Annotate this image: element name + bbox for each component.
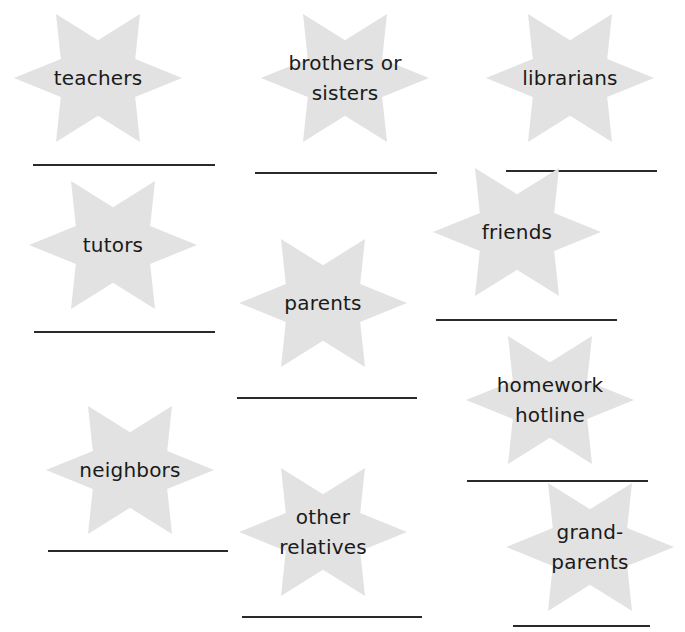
label-text: parents [284, 288, 361, 318]
label-text: friends [482, 217, 552, 247]
answer-line-tutors[interactable] [34, 331, 215, 333]
label-text: sisters [312, 78, 379, 108]
star-friends: friends [432, 157, 602, 307]
label-text: tutors [83, 230, 143, 260]
label-text: parents [551, 547, 628, 577]
star-neighbors: neighbors [45, 395, 215, 545]
label-text: librarians [522, 63, 617, 93]
star-label: parents [238, 228, 408, 378]
star-label: homework hotline [465, 325, 635, 475]
label-text: other [296, 502, 350, 532]
star-teachers: teachers [13, 3, 183, 153]
answer-line-brothers-or-sisters[interactable] [255, 172, 437, 174]
label-text: grand- [557, 517, 624, 547]
star-grandparents: grand- parents [505, 472, 675, 622]
star-label: grand- parents [505, 472, 675, 622]
star-label: neighbors [45, 395, 215, 545]
answer-line-friends[interactable] [436, 319, 617, 321]
star-other-relatives: other relatives [238, 457, 408, 607]
answer-line-teachers[interactable] [33, 164, 215, 166]
star-label: brothers or sisters [260, 3, 430, 153]
star-label: tutors [28, 170, 198, 320]
answer-line-neighbors[interactable] [48, 550, 228, 552]
star-homework-hotline: homework hotline [465, 325, 635, 475]
label-text: neighbors [79, 455, 180, 485]
answer-line-grandparents[interactable] [513, 625, 650, 627]
label-text: teachers [54, 63, 143, 93]
label-text: relatives [279, 532, 367, 562]
label-text: hotline [515, 400, 585, 430]
star-brothers-or-sisters: brothers or sisters [260, 3, 430, 153]
star-label: librarians [485, 3, 655, 153]
star-parents: parents [238, 228, 408, 378]
answer-line-other-relatives[interactable] [242, 616, 422, 618]
star-tutors: tutors [28, 170, 198, 320]
star-label: teachers [13, 3, 183, 153]
label-text: brothers or [288, 48, 401, 78]
star-label: other relatives [238, 457, 408, 607]
label-text: homework [497, 370, 604, 400]
answer-line-parents[interactable] [237, 397, 417, 399]
worksheet-canvas: teachers brothers or sisters librarians … [0, 0, 685, 632]
star-label: friends [432, 157, 602, 307]
star-librarians: librarians [485, 3, 655, 153]
